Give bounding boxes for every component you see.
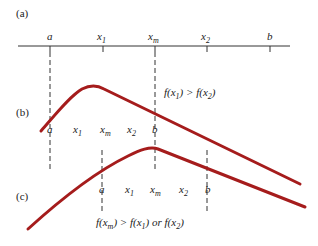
panel-c-condition: f(xm) > f(x1) or f(x2) [96, 216, 184, 231]
panel-b-label-xm: xm [99, 123, 111, 138]
panel-c-label-x2: x2 [178, 183, 188, 198]
axis-label-b: b [267, 30, 273, 42]
panel-c-label-b: b [205, 183, 211, 195]
panel-c-label-xm: xm [149, 183, 161, 198]
panel-b-label-x2: x2 [126, 123, 136, 138]
axis-label-a: a [47, 30, 53, 42]
axis-label-x1: x1 [96, 30, 106, 45]
panel-b-condition: f(x1) > f(x2) [164, 86, 216, 101]
panel-a-label: (a) [16, 7, 29, 20]
panel-c-label-x1: x1 [124, 183, 134, 198]
axis-label-x2: x2 [200, 30, 210, 45]
interval-search-diagram: (a) a x1 xm x2 b (b) a x1 xm x2 b f(x1) … [0, 0, 318, 246]
panel-c-label: (c) [16, 190, 29, 203]
panel-b-label-b: b [152, 123, 158, 135]
panel-b-label-a: a [47, 123, 53, 135]
axis-label-xm: xm [147, 30, 159, 45]
panel-c-label-a: a [99, 183, 105, 195]
panel-b-label-x1: x1 [72, 123, 82, 138]
panel-b-label: (b) [16, 106, 29, 119]
